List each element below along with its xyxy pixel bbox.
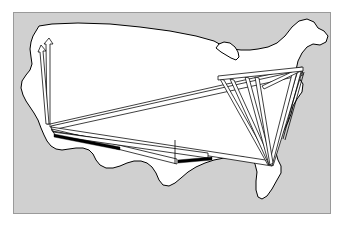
us-outline-shape [21, 19, 328, 199]
figure-root [0, 0, 345, 227]
us-route-flow-map [0, 0, 345, 227]
map-landmass-group [21, 19, 328, 199]
